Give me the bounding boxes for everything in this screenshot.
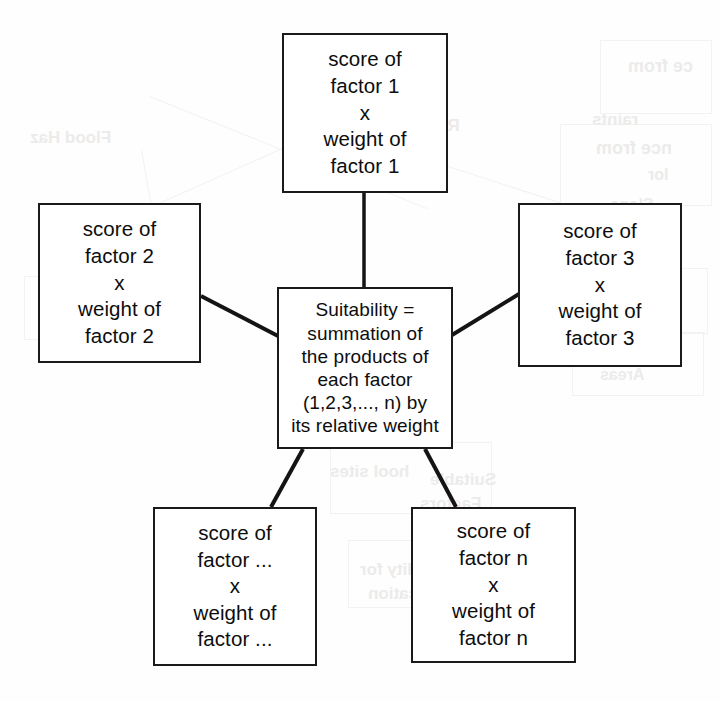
node-text-line: factor ... [194, 547, 277, 574]
node-text-line: weight of [452, 598, 535, 625]
factor-2-node-text: score of factor 2 x weight of factor 2 [78, 216, 161, 349]
node-text-line: x [324, 100, 407, 127]
factor-2-node: score of factor 2 x weight of factor 2 [38, 203, 201, 363]
node-text-line: factor 3 [559, 325, 642, 352]
node-text-line: each factor [291, 368, 439, 391]
factor-1-node: score of factor 1 x weight of factor 1 [282, 33, 448, 193]
factor-ellipsis-node-text: score of factor ... x weight of factor .… [194, 520, 277, 653]
node-text-line: factor n [452, 625, 535, 652]
suitability-formula-node: Suitability = summation of the products … [277, 287, 453, 449]
node-text-line: x [559, 272, 642, 299]
node-text-line: weight of [324, 126, 407, 153]
node-text-line: factor n [452, 545, 535, 572]
node-text-line: score of [194, 520, 277, 547]
node-text-line: weight of [194, 600, 277, 627]
factor-3-node: score of factor 3 x weight of factor 3 [518, 203, 682, 367]
factor-ellipsis-node: score of factor ... x weight of factor .… [153, 507, 317, 666]
node-text-line: score of [559, 218, 642, 245]
node-text-line: factor 2 [78, 243, 161, 270]
node-text-line: Suitability = [291, 298, 439, 321]
node-text-line: weight of [78, 296, 161, 323]
node-text-line: x [78, 270, 161, 297]
node-text-line: summation of [291, 322, 439, 345]
node-text-line: score of [78, 216, 161, 243]
node-text-line: score of [452, 518, 535, 545]
factor-n-node-text: score of factor n x weight of factor n [452, 518, 535, 651]
node-text-line: factor ... [194, 626, 277, 653]
node-text-line: factor 1 [324, 73, 407, 100]
node-text-line: (1,2,3,..., n) by [291, 391, 439, 414]
diagram-page: Flood Hazraintsce fromnce fromlorSlopeRo… [0, 0, 720, 701]
node-text-line: score of [324, 46, 407, 73]
factor-1-node-text: score of factor 1 x weight of factor 1 [324, 46, 407, 179]
node-text-line: its relative weight [291, 414, 439, 437]
node-text-line: weight of [559, 298, 642, 325]
factor-3-node-text: score of factor 3 x weight of factor 3 [559, 218, 642, 351]
factor-n-node: score of factor n x weight of factor n [411, 507, 576, 663]
node-text-line: factor 3 [559, 245, 642, 272]
node-text-line: factor 2 [78, 323, 161, 350]
suitability-formula-text: Suitability = summation of the products … [291, 298, 439, 437]
node-text-line: factor 1 [324, 153, 407, 180]
diagram-nodes: score of factor 1 x weight of factor 1 s… [0, 0, 720, 701]
node-text-line: x [194, 573, 277, 600]
node-text-line: x [452, 572, 535, 599]
node-text-line: the products of [291, 345, 439, 368]
